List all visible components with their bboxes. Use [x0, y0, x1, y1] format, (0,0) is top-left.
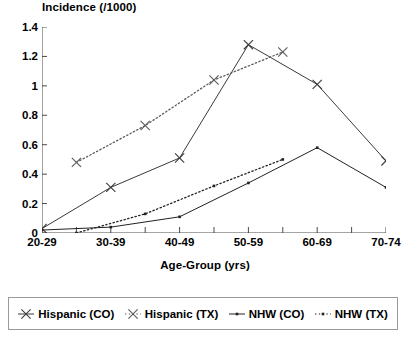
series-nhw-co — [42, 146, 386, 231]
legend-label: NHW (TX) — [335, 308, 388, 320]
x-axis-tick-labels: 20-2930-3940-4950-5960-6970-74 — [42, 236, 386, 256]
y-axis-tick-label: 0.2 — [22, 198, 38, 210]
x-marker-icon — [125, 308, 141, 320]
square-marker-icon — [315, 308, 331, 320]
x-axis-tick-label: 20-29 — [27, 236, 56, 248]
chart-legend: Hispanic (CO)Hispanic (TX)NHW (CO)NHW (T… — [8, 297, 398, 330]
series-markers — [42, 146, 386, 231]
legend-label: NHW (CO) — [249, 308, 305, 320]
series-nhw-tx — [75, 158, 284, 233]
square-marker-icon — [229, 308, 245, 320]
y-axis-ticks — [42, 27, 47, 233]
y-axis-tick-label: 1 — [32, 80, 38, 92]
y-axis-tick-label: 0.6 — [22, 139, 38, 151]
y-axis-tick-label: 1.4 — [22, 21, 38, 33]
series-hispanic-tx — [72, 47, 288, 167]
x-axis-tick-label: 40-49 — [165, 236, 194, 248]
y-axis-tick-labels: 00.20.40.60.811.21.4 — [0, 27, 38, 233]
legend-label: Hispanic (TX) — [145, 308, 218, 320]
legend-item-nhw-co: NHW (CO) — [229, 308, 305, 320]
series-hispanic-co — [42, 40, 386, 233]
series-markers — [75, 158, 284, 233]
x-marker-icon — [18, 308, 34, 320]
series-markers — [42, 40, 386, 233]
x-axis-tick-label: 50-59 — [234, 236, 263, 248]
y-axis-tick-label: 1.2 — [22, 50, 38, 62]
x-axis-tick-label: 30-39 — [96, 236, 125, 248]
axes — [42, 27, 386, 233]
legend-item-hispanic-tx: Hispanic (TX) — [125, 308, 218, 320]
y-axis-tick-label: 0.4 — [22, 168, 38, 180]
y-axis-tick-label: 0.8 — [22, 109, 38, 121]
x-axis-tick-label: 70-74 — [371, 236, 400, 248]
legend-item-nhw-tx: NHW (TX) — [315, 308, 388, 320]
x-axis-title: Age-Group (yrs) — [0, 259, 410, 271]
legend-item-hispanic-co: Hispanic (CO) — [18, 308, 114, 320]
x-axis-tick-label: 60-69 — [302, 236, 331, 248]
series-markers — [72, 47, 288, 167]
plot-canvas — [42, 27, 386, 233]
chart-page: Incidence (/1000) 00.20.40.60.811.21.4 2… — [0, 0, 410, 342]
line-chart: Incidence (/1000) 00.20.40.60.811.21.4 2… — [0, 0, 410, 285]
y-axis-title: Incidence (/1000) — [42, 1, 136, 13]
legend-label: Hispanic (CO) — [38, 308, 114, 320]
